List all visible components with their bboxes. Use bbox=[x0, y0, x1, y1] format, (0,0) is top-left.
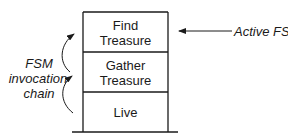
stack-cell-gather-treasure-line2: Treasure bbox=[100, 73, 152, 88]
fsm-stack-diagram: Find Treasure Gather Treasure Live Activ… bbox=[0, 0, 288, 140]
active-fsm-pointer: Active FSM bbox=[179, 24, 288, 39]
stack-cell-gather-treasure-line1: Gather bbox=[106, 58, 146, 73]
stack-cell-find-treasure-line1: Find bbox=[113, 18, 138, 33]
chain-label-line1: FSM bbox=[25, 56, 53, 71]
invocation-chain: FSM invocation chain bbox=[9, 34, 74, 113]
stack-cell-live: Live bbox=[114, 105, 138, 120]
active-fsm-label: Active FSM bbox=[233, 24, 288, 39]
curved-arrow-up-icon bbox=[62, 34, 74, 72]
chain-label-line2: invocation bbox=[9, 71, 68, 86]
chain-label-line3: chain bbox=[23, 86, 54, 101]
fsm-stack: Find Treasure Gather Treasure Live bbox=[72, 12, 178, 132]
stack-cell-find-treasure-line2: Treasure bbox=[100, 33, 152, 48]
